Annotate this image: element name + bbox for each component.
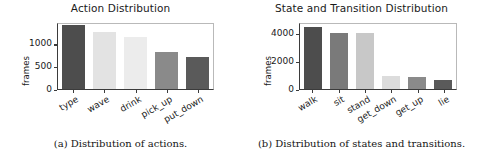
x-tick-mark bbox=[104, 90, 105, 93]
bar-cell bbox=[151, 24, 182, 89]
bar-pick_up bbox=[155, 52, 177, 89]
plot-area-b: frames 020004000 walksitstandget_downget… bbox=[241, 0, 482, 120]
panel-a: Action Distribution frames 05001000 type… bbox=[0, 0, 241, 152]
x-tick-mark bbox=[365, 90, 366, 93]
x-tick-mark bbox=[73, 90, 74, 93]
bar-cell bbox=[120, 24, 151, 89]
y-tick-label: 1000 bbox=[12, 38, 52, 48]
x-tick-mark bbox=[391, 90, 392, 93]
y-tick-label: 0 bbox=[254, 84, 294, 94]
bar-series-a bbox=[58, 24, 213, 89]
caption-a: (a) Distribution of actions. bbox=[0, 138, 241, 149]
bar-cell bbox=[182, 24, 213, 89]
axes-frame-a bbox=[57, 23, 214, 90]
x-tick-mark bbox=[136, 90, 137, 93]
x-tick-label-put_down: put_down bbox=[147, 94, 206, 134]
bar-put_down bbox=[186, 57, 208, 89]
y-tick-label: 0 bbox=[12, 84, 52, 94]
bar-walk bbox=[304, 27, 323, 89]
y-tick-mark bbox=[54, 90, 57, 91]
plot-area-a: frames 05001000 typewavedrinkpick_upput_… bbox=[0, 0, 241, 120]
x-tick-mark bbox=[312, 90, 313, 93]
bar-cell bbox=[404, 24, 430, 89]
panel-b: State and Transition Distribution frames… bbox=[241, 0, 482, 152]
bar-lie bbox=[434, 80, 453, 89]
bar-type bbox=[62, 25, 84, 89]
y-tick-mark bbox=[296, 90, 299, 91]
bar-series-b bbox=[300, 24, 456, 89]
x-tick-mark bbox=[167, 90, 168, 93]
bar-drink bbox=[124, 37, 146, 89]
y-tick-label: 500 bbox=[12, 61, 52, 71]
bar-stand bbox=[356, 33, 375, 89]
axes-frame-b bbox=[299, 23, 457, 90]
bar-cell bbox=[326, 24, 352, 89]
x-tick-mark bbox=[444, 90, 445, 93]
bar-cell bbox=[378, 24, 404, 89]
bar-cell bbox=[58, 24, 89, 89]
bar-cell bbox=[352, 24, 378, 89]
figure-two-bar-charts: Action Distribution frames 05001000 type… bbox=[0, 0, 482, 152]
x-tick-mark bbox=[339, 90, 340, 93]
bar-get_down bbox=[382, 76, 401, 89]
bar-get_up bbox=[408, 77, 427, 89]
x-tick-mark bbox=[418, 90, 419, 93]
y-tick-label: 4000 bbox=[254, 28, 294, 38]
bar-sit bbox=[330, 33, 349, 89]
bar-cell bbox=[430, 24, 456, 89]
x-tick-mark bbox=[198, 90, 199, 93]
caption-b: (b) Distribution of states and transitio… bbox=[241, 138, 482, 149]
y-tick-label: 2000 bbox=[254, 56, 294, 66]
bar-cell bbox=[300, 24, 326, 89]
bar-wave bbox=[93, 32, 115, 89]
bar-cell bbox=[89, 24, 120, 89]
